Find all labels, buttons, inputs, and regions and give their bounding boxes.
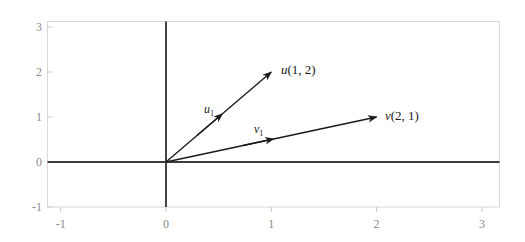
x-tick-label-3: 3 [479,218,485,230]
y-tick-label-neg1: -1 [32,201,42,213]
vector-u-label-coords: (1, 2) [288,62,316,77]
x-tick-label-neg1: -1 [56,218,66,230]
vector-diagram-figure: 3 2 1 0 -1 -1 0 1 2 3 u(1, 2) v(2, 1) u1… [0,0,525,242]
vector-v-mid-arrowhead [243,140,270,146]
vector-u-mid-arrowhead [197,116,220,135]
vector-u-mid-label: u1 [204,103,214,118]
vector-v [166,117,377,162]
plot-frame [48,22,500,208]
vector-v-label-coords: (2, 1) [391,108,419,123]
x-tick-label-2: 2 [374,218,380,230]
vector-v-mid-label: v1 [254,123,263,138]
vector-v-label: v(2, 1) [385,109,419,122]
vector-u [166,72,271,162]
y-tick-label-2: 2 [36,66,42,78]
plot-canvas [0,0,525,242]
vector-v-shaft [166,117,377,162]
x-tick-label-1: 1 [268,218,274,230]
x-axis-ticks [61,207,482,212]
vector-u-mid-label-sub: 1 [210,109,214,118]
vector-u-label: u(1, 2) [281,63,316,76]
y-tick-label-0: 0 [36,156,42,168]
y-axis-ticks [48,27,53,207]
x-tick-label-0: 0 [163,218,169,230]
vector-v-mid-label-sub: 1 [259,129,263,138]
y-tick-label-1: 1 [36,111,42,123]
y-tick-label-3: 3 [36,21,42,33]
